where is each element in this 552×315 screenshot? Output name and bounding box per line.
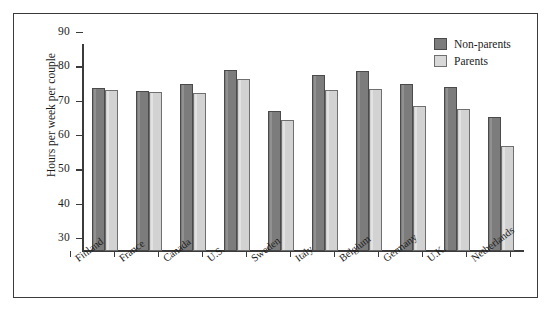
x-axis-tick (70, 251, 71, 257)
bar-parents[interactable] (325, 90, 338, 251)
bar-non-parents[interactable] (312, 75, 325, 251)
legend-swatch-non-parents-icon (434, 38, 447, 50)
x-axis-tick (378, 251, 379, 257)
y-axis-tick-label: 70 (44, 95, 70, 107)
y-axis-tick-label: 40 (44, 198, 70, 210)
y-axis-tick-label: 30 (44, 232, 70, 244)
bar-group (347, 45, 391, 251)
y-axis-tick (76, 32, 83, 33)
x-axis-tick (510, 251, 511, 257)
bar-group (215, 45, 259, 251)
y-axis-tick (76, 101, 83, 102)
bar-non-parents[interactable] (180, 84, 193, 251)
x-axis-tick (158, 251, 159, 257)
y-axis-tick-label: 50 (44, 163, 70, 175)
x-axis-tick (290, 251, 291, 257)
bar-parents[interactable] (413, 106, 426, 251)
bar-parents[interactable] (149, 92, 162, 251)
x-axis-tick (114, 251, 115, 257)
bar-parents[interactable] (281, 120, 294, 251)
legend-swatch-parents-icon (434, 55, 447, 67)
bar-group (303, 45, 347, 251)
x-axis-tick (246, 251, 247, 257)
bar-non-parents[interactable] (268, 111, 281, 251)
bar-non-parents[interactable] (136, 91, 149, 251)
y-axis-tick-label: 80 (44, 60, 70, 72)
bar-non-parents[interactable] (400, 84, 413, 251)
x-axis-tick (422, 251, 423, 257)
bar-non-parents[interactable] (224, 70, 237, 251)
y-axis-tick (76, 66, 83, 67)
legend-label-parents: Parents (454, 55, 488, 67)
bar-non-parents[interactable] (444, 87, 457, 251)
bar-parents[interactable] (237, 79, 250, 251)
bar-group (479, 45, 523, 251)
chart-frame: Hours per week per couple 90807060504030… (13, 13, 538, 298)
bar-non-parents[interactable] (92, 88, 105, 251)
bar-group (83, 45, 127, 251)
bar-parents[interactable] (457, 109, 470, 251)
bar-parents[interactable] (193, 93, 206, 251)
x-axis-tick (466, 251, 467, 257)
x-axis-tick (202, 251, 203, 257)
legend-item-non-parents[interactable]: Non-parents (434, 38, 511, 50)
bar-group (435, 45, 479, 251)
y-axis-tick-label: 90 (44, 26, 70, 38)
legend-label-non-parents: Non-parents (454, 38, 511, 50)
y-axis-tick (76, 238, 83, 239)
legend-item-parents[interactable]: Parents (434, 55, 511, 67)
y-axis-tick (76, 204, 83, 205)
bar-parents[interactable] (105, 90, 118, 251)
bar-parents[interactable] (369, 89, 382, 251)
bar-group (127, 45, 171, 251)
x-axis-tick (334, 251, 335, 257)
y-axis-tick (76, 169, 83, 170)
bar-group (171, 45, 215, 251)
y-axis-tick-label: 60 (44, 129, 70, 141)
y-axis-tick (76, 135, 83, 136)
bar-non-parents[interactable] (356, 71, 369, 251)
chart-legend: Non-parents Parents (434, 38, 511, 72)
plot-area (83, 45, 523, 251)
bar-group (259, 45, 303, 251)
bar-group (391, 45, 435, 251)
